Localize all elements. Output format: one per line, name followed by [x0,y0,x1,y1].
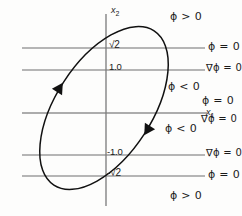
y-axis-label: x2 [111,6,119,17]
annotation-phi-positive-top: ϕ > 0 [170,11,202,22]
tick-label-negative-one: -1.0 [107,147,123,157]
phase-plane-figure: x2 x1 √2 1.0 -1.0 -√2 ϕ > 0 ϕ = 0 ∇ϕ = 0… [0,0,242,216]
annotation-grad-phi-zero-lower: ∇ϕ = 0 [206,148,242,158]
y-axis-label-sub: 2 [116,10,120,17]
trajectory-ellipse [14,5,195,212]
annotation-phi-zero-upper: ϕ = 0 [208,41,240,52]
annotation-phi-zero-middle: ϕ = 0 [202,95,234,106]
direction-arrows [52,79,155,138]
annotation-grad-phi-zero-middle: ∇ϕ = 0 [201,114,237,124]
annotation-phi-positive-bottom: ϕ > 0 [170,190,202,201]
tick-label-one: 1.0 [109,62,122,72]
tick-label-negative-sqrt2: -√2 [107,168,121,178]
tick-label-sqrt2: √2 [109,40,120,50]
annotation-phi-negative-lower: ϕ < 0 [165,123,197,134]
annotation-phi-zero-lower: ϕ = 0 [208,169,240,180]
arrowhead-icon [52,79,68,95]
annotation-grad-phi-zero-upper: ∇ϕ = 0 [206,63,242,73]
arrowhead-icon [139,123,155,139]
annotation-phi-negative-upper: ϕ < 0 [168,81,200,92]
